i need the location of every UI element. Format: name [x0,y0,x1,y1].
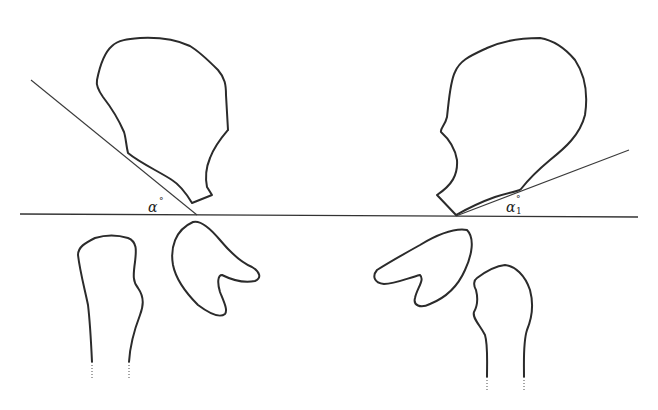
right-tangent-line [456,150,629,216]
right-shaft-fade [487,377,524,390]
left-femoral-head [172,222,259,316]
hip-angle-diagram: α ° α 1 ° [0,0,658,410]
right-femoral-head [374,230,471,307]
horizontal-reference-line [20,214,638,217]
left-degree-mark: ° [159,196,164,206]
left-shaft-fade [92,362,129,378]
right-femur-shaft [474,265,532,377]
right-angle-subscript: 1 [516,206,522,216]
right-degree-mark: ° [516,194,521,204]
left-angle-label: α [148,199,158,215]
right-angle-label: α [506,199,516,215]
left-ilium [97,38,228,203]
diagram-svg: α ° α 1 ° [0,0,658,410]
left-femur-shaft [78,236,143,362]
left-tangent-line [31,80,197,215]
right-ilium [437,38,586,215]
